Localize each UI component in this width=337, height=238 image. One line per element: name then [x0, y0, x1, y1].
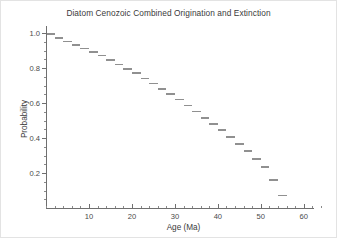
y-tick-label: 0.2 — [29, 169, 40, 178]
y-tick-label: 0.8 — [29, 64, 40, 73]
y-tick-minor — [44, 182, 46, 183]
x-tick-minor — [244, 206, 245, 208]
y-tick-minor — [44, 51, 46, 52]
x-tick-minor — [123, 206, 124, 208]
x-tick-label: 10 — [85, 212, 93, 221]
data-point-dash — [269, 179, 278, 181]
y-tick-label: 1.0 — [29, 29, 40, 38]
data-point-dash — [132, 72, 141, 74]
data-point-dash — [106, 59, 115, 61]
x-tick-minor — [149, 206, 150, 208]
chart-figure: Diatom Cenozoic Combined Origination and… — [0, 0, 337, 238]
data-point-dash — [72, 44, 81, 46]
data-point-dash — [184, 105, 193, 107]
x-axis-spine — [46, 208, 314, 209]
x-tick-minor — [252, 206, 253, 208]
y-axis-spine — [46, 26, 47, 208]
x-tick-minor — [295, 206, 296, 208]
x-tick-minor — [158, 206, 159, 208]
y-tick-minor — [44, 112, 46, 113]
data-point-dash — [226, 136, 235, 138]
x-tick-major — [304, 204, 305, 208]
x-tick-major — [132, 204, 133, 208]
x-tick-minor — [269, 206, 270, 208]
y-tick-minor — [44, 77, 46, 78]
chart-title: Diatom Cenozoic Combined Origination and… — [1, 8, 336, 18]
y-tick-minor — [44, 164, 46, 165]
x-tick-label: 20 — [128, 212, 136, 221]
data-point-dash — [261, 166, 270, 168]
x-tick-minor — [235, 206, 236, 208]
data-point-dash — [192, 111, 201, 113]
y-tick-minor — [44, 191, 46, 192]
x-tick-minor — [141, 206, 142, 208]
y-tick-minor — [44, 199, 46, 200]
x-tick-minor — [321, 206, 322, 208]
data-point-dash — [47, 33, 56, 35]
x-tick-minor — [72, 206, 73, 208]
data-point-dash — [244, 150, 253, 152]
x-tick-minor — [80, 206, 81, 208]
y-tick-major — [42, 173, 46, 174]
x-tick-major — [218, 204, 219, 208]
y-tick-label: 0.4 — [29, 134, 40, 143]
data-point-dash — [63, 41, 72, 43]
x-tick-minor — [278, 206, 279, 208]
x-tick-minor — [46, 206, 47, 208]
x-tick-major — [261, 204, 262, 208]
data-point-dash — [141, 78, 150, 80]
x-tick-minor — [226, 206, 227, 208]
y-tick-minor — [44, 121, 46, 122]
y-tick-major — [42, 103, 46, 104]
x-tick-major — [89, 204, 90, 208]
x-tick-minor — [63, 206, 64, 208]
data-point-dash — [166, 93, 175, 95]
y-tick-minor — [44, 147, 46, 148]
x-tick-label: 40 — [214, 212, 222, 221]
data-point-dash — [149, 83, 158, 85]
x-tick-minor — [209, 206, 210, 208]
data-point-dash — [235, 143, 244, 145]
x-tick-minor — [115, 206, 116, 208]
data-point-dash — [252, 158, 261, 160]
data-point-dash — [115, 64, 124, 66]
data-point-dash — [80, 48, 89, 50]
data-point-dash — [218, 129, 227, 131]
y-tick-minor — [44, 156, 46, 157]
x-tick-major — [175, 204, 176, 208]
x-tick-minor — [287, 206, 288, 208]
y-tick-minor — [44, 129, 46, 130]
y-axis-label: Probability — [20, 100, 29, 138]
data-point-dash — [158, 88, 167, 90]
data-point-dash — [123, 68, 132, 70]
y-tick-minor — [44, 94, 46, 95]
x-tick-minor — [55, 206, 56, 208]
x-tick-minor — [192, 206, 193, 208]
y-tick-minor — [44, 42, 46, 43]
y-tick-minor — [44, 86, 46, 87]
x-tick-minor — [166, 206, 167, 208]
y-tick-major — [42, 33, 46, 34]
data-point-dash — [175, 99, 184, 101]
x-axis-label: Age (Ma) — [46, 223, 321, 232]
x-tick-label: 30 — [171, 212, 179, 221]
y-tick-major — [42, 138, 46, 139]
y-tick-major — [42, 68, 46, 69]
y-tick-label: 0.6 — [29, 99, 40, 108]
x-tick-minor — [184, 206, 185, 208]
x-tick-minor — [106, 206, 107, 208]
x-tick-minor — [98, 206, 99, 208]
data-point-dash — [201, 117, 210, 119]
y-tick-minor — [44, 59, 46, 60]
data-point-dash — [98, 55, 107, 57]
data-point-dash — [209, 123, 218, 125]
data-point-dash — [278, 195, 287, 197]
data-point-dash — [89, 51, 98, 53]
plot-area: 0.20.40.60.81.0 102030405060 — [46, 26, 321, 208]
x-tick-label: 60 — [300, 212, 308, 221]
x-tick-minor — [312, 206, 313, 208]
x-tick-label: 50 — [257, 212, 265, 221]
x-tick-minor — [201, 206, 202, 208]
data-point-dash — [55, 37, 64, 39]
